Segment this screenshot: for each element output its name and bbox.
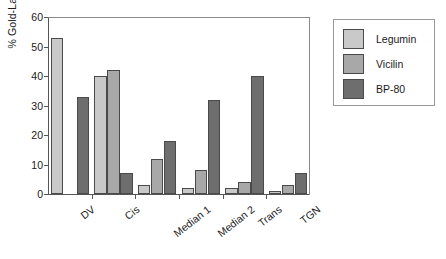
x-tick-label: TGN — [298, 203, 323, 226]
y-axis-title: % Gold-Label — [6, 0, 22, 71]
y-tick-mark — [44, 135, 48, 136]
bar — [151, 159, 164, 194]
x-tick-mark — [223, 195, 224, 199]
x-tick-label: Cis — [122, 203, 141, 222]
y-tick-label: 30 — [31, 100, 43, 112]
y-tick-label: 60 — [31, 11, 43, 23]
bar — [208, 100, 221, 194]
x-tick-label: Median 1 — [172, 203, 213, 239]
y-tick-mark — [44, 76, 48, 77]
bar — [195, 170, 208, 194]
y-tick-mark — [44, 194, 48, 195]
bar — [269, 191, 282, 194]
y-tick-mark — [44, 106, 48, 107]
bar — [295, 173, 308, 194]
legend-swatch — [343, 79, 364, 99]
bar — [282, 185, 295, 194]
y-tick-label: 40 — [31, 70, 43, 82]
bar — [107, 70, 120, 194]
x-tick-label: DV — [78, 203, 97, 221]
x-tick-mark — [179, 195, 180, 199]
plot-top-border — [48, 17, 310, 18]
x-tick-mark — [135, 195, 136, 199]
bar — [164, 141, 177, 194]
legend-swatch — [343, 54, 364, 74]
bar — [251, 76, 264, 194]
bar — [238, 182, 251, 194]
bar — [225, 188, 238, 194]
y-tick-mark — [44, 17, 48, 18]
legend-label: BP-80 — [376, 83, 405, 95]
x-tick-mark — [92, 195, 93, 199]
legend: LeguminVicilinBP-80 — [333, 19, 435, 106]
bar — [51, 38, 64, 194]
y-tick-mark — [44, 47, 48, 48]
legend-item: BP-80 — [343, 78, 405, 100]
bar — [77, 97, 90, 194]
legend-swatch — [343, 29, 364, 49]
bar — [138, 185, 151, 194]
bar — [120, 173, 133, 194]
bar — [182, 188, 195, 194]
legend-item: Vicilin — [343, 53, 403, 75]
bar — [94, 76, 107, 194]
x-tick-mark — [266, 195, 267, 199]
legend-item: Legumin — [343, 28, 416, 50]
y-tick-label: 10 — [31, 159, 43, 171]
legend-label: Vicilin — [376, 58, 403, 70]
x-tick-label: Median 2 — [215, 203, 256, 239]
y-tick-label: 50 — [31, 41, 43, 53]
y-tick-mark — [44, 165, 48, 166]
y-tick-label: 20 — [31, 129, 43, 141]
bar-chart-figure: % Gold-Label 0102030405060 DVCisMedian 1… — [0, 0, 446, 259]
plot-right-border — [309, 17, 310, 195]
y-tick-label: 0 — [37, 188, 43, 200]
x-tick-label: Trans — [255, 203, 283, 229]
legend-label: Legumin — [376, 33, 416, 45]
y-axis-line — [48, 17, 49, 195]
plot-area: 0102030405060 DVCisMedian 1Median 2Trans… — [48, 17, 310, 195]
